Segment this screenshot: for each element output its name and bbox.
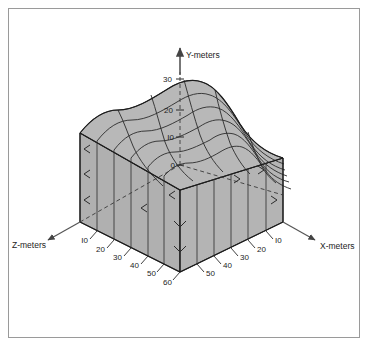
z-tick-10: I0 xyxy=(81,236,88,245)
x-tick-30: 30 xyxy=(240,253,249,262)
x-tick-50: 50 xyxy=(206,269,215,278)
x-axis-line xyxy=(283,222,315,240)
z-tick-50: 50 xyxy=(147,269,156,278)
surface-plot: Y-meters 30 20 I0 0 Z-meters xyxy=(0,0,370,348)
z-tick-60: 60 xyxy=(163,278,172,287)
z-tick-20: 20 xyxy=(96,245,105,254)
y-tick-10: I0 xyxy=(167,133,174,142)
y-tick-30: 30 xyxy=(163,75,172,84)
z-axis-title: Z-meters xyxy=(12,240,46,250)
y-tick-20: 20 xyxy=(164,106,173,115)
y-axis-title: Y-meters xyxy=(186,50,220,60)
x-tick-40: 40 xyxy=(223,261,232,270)
z-tick-30: 30 xyxy=(113,253,122,262)
figure-page: Y-meters 30 20 I0 0 Z-meters xyxy=(0,0,370,348)
z-tick-40: 40 xyxy=(130,261,139,270)
y-tick-0: 0 xyxy=(171,161,176,170)
x-tick-20: 20 xyxy=(257,245,266,254)
x-tick-10: I0 xyxy=(275,236,282,245)
z-axis-line xyxy=(48,222,80,240)
x-axis-title: X-meters xyxy=(320,241,354,251)
